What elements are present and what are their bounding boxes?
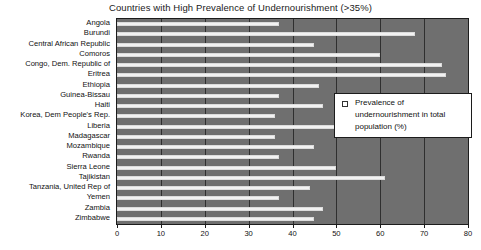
bar [117,155,279,159]
y-axis-label: Central African Republic [29,39,110,49]
bar-row [117,152,468,162]
bar [117,32,415,36]
bar-row [117,70,468,80]
y-axis-label: Korea, Dem People's Rep. [20,110,110,120]
bar-row [117,173,468,183]
y-axis-label: Ethiopia [83,80,110,90]
y-axis-label: Yemen [87,192,110,202]
x-axis-tick-label: 70 [420,229,428,238]
legend-label: Prevalence of undernourishment in total … [355,97,467,133]
y-axis-label: Guinea-Bissau [60,90,110,100]
x-axis-tick [380,225,381,228]
x-axis-tick-label: 80 [464,229,472,238]
x-axis: 01020304050607080 [116,225,469,247]
y-axis-label: Tajikistan [79,172,110,182]
bar [117,114,275,118]
y-axis-label: Haiti [95,100,110,110]
x-axis-tick-label: 60 [376,229,384,238]
bar [117,145,314,149]
x-axis-tick [424,225,425,228]
x-axis-tick-label: 30 [244,229,252,238]
bar [117,104,323,108]
chart-title: Countries with High Prevalence of Undern… [0,2,481,13]
bar [117,84,319,88]
bar [117,217,314,221]
bar-row [117,193,468,203]
x-axis-tick [336,225,337,228]
bar [117,166,336,170]
x-axis-tick [249,225,250,228]
x-axis-tick-label: 40 [288,229,296,238]
bar [117,125,336,129]
x-axis-tick-label: 0 [115,229,119,238]
y-axis-label: Eritrea [88,69,110,79]
bar [117,135,275,139]
y-axis-label: Congo, Dem. Republic of [25,59,110,69]
bar [117,186,310,190]
y-axis-label: Madagascar [68,131,110,141]
bar-row [117,19,468,29]
chart-legend: Prevalence of undernourishment in total … [334,93,472,138]
bar [117,43,314,47]
bar-row [117,163,468,173]
y-axis-label: Zambia [85,203,110,213]
bar-row [117,40,468,50]
bar-row [117,50,468,60]
bar-row [117,29,468,39]
x-axis-tick [117,225,118,228]
x-axis-tick-label: 10 [157,229,165,238]
bar [117,207,323,211]
y-axis-label: Mozambique [67,141,110,151]
bar [117,94,279,98]
y-axis-label: Burundi [84,28,110,38]
x-axis-tick [293,225,294,228]
bar-row [117,81,468,91]
bar-row [117,60,468,70]
bar [117,53,380,57]
bar [117,196,279,200]
x-axis-tick-label: 50 [332,229,340,238]
bar [117,73,446,77]
bar [117,176,385,180]
bar-row [117,214,468,224]
y-axis-category-labels: AngolaBurundiCentral African RepublicCom… [0,18,113,225]
x-axis-tick [161,225,162,228]
x-axis-tick-label: 20 [201,229,209,238]
undernourishment-bar-chart: Countries with High Prevalence of Undern… [0,0,481,250]
y-axis-label: Comoros [79,49,110,59]
bar-row [117,183,468,193]
x-axis-tick [205,225,206,228]
bar [117,63,442,67]
legend-swatch-icon [342,101,348,107]
y-axis-label: Liberia [87,121,110,131]
y-axis-label: Angola [86,18,110,28]
y-axis-label: Rwanda [82,151,110,161]
y-axis-label: Tanzania, United Rep of [29,182,110,192]
bar-row [117,204,468,214]
x-axis-tick [468,225,469,228]
y-axis-label: Sierra Leone [67,162,110,172]
bar-row [117,142,468,152]
y-axis-label: Zimbabwe [75,213,110,223]
bar [117,22,279,26]
